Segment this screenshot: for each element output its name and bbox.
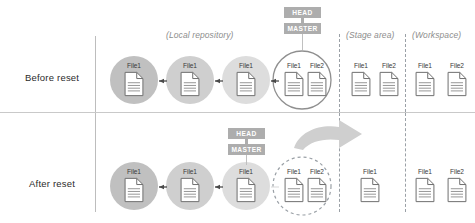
file-glyph-after-discarded-file2 <box>308 178 326 201</box>
file-label-after-discarded-file2: File2 <box>307 168 327 177</box>
file-glyph-after-commit2-file1 <box>181 178 199 201</box>
file-glyph-before-commit2-file1 <box>181 72 199 95</box>
file-glyph-before-commit1-file1 <box>125 72 143 95</box>
head-master-tags-before: HEAD MASTER <box>284 7 321 50</box>
head-tag-before: HEAD <box>284 7 321 18</box>
head-tag-after: HEAD <box>228 128 265 139</box>
file-label-after-stage-file1: File1 <box>360 168 380 177</box>
tag-stem-before <box>302 34 304 50</box>
tag-stem-after <box>246 155 248 165</box>
file-label-before-head-file2: File2 <box>307 62 327 71</box>
master-tag-after: MASTER <box>228 144 265 155</box>
file-label-before-stage-file1: File1 <box>351 62 371 71</box>
file-label-before-workspace-file2: File2 <box>447 62 467 71</box>
file-label-before-stage-file2: File2 <box>379 62 399 71</box>
file-glyph-after-commit1-file1 <box>125 178 143 201</box>
file-label-before-head-file1: File1 <box>284 62 304 71</box>
diagram-graphics <box>0 0 475 223</box>
file-label-before-commit2-file1: File1 <box>180 62 200 71</box>
file-glyph-after-discarded-file1 <box>285 178 303 201</box>
file-glyph-before-head-file1 <box>285 72 303 95</box>
file-label-after-workspace-file2: File2 <box>447 168 467 177</box>
reset-direction-arrow <box>294 120 362 150</box>
head-master-tags-after: HEAD MASTER <box>228 128 265 165</box>
file-glyph-before-head-file2 <box>308 72 326 95</box>
file-label-before-workspace-file1: File1 <box>415 62 435 71</box>
file-glyph-before-stage-file2 <box>380 72 398 95</box>
file-glyph-after-workspace-file1 <box>416 178 434 201</box>
master-tag-before: MASTER <box>284 23 321 34</box>
file-glyph-after-workspace-file2 <box>448 178 466 201</box>
file-label-after-commit2-file1: File1 <box>180 168 200 177</box>
file-label-after-commit3-file1: File1 <box>236 168 256 177</box>
file-glyph-before-commit3-file1 <box>237 72 255 95</box>
file-label-after-workspace-file1: File1 <box>415 168 435 177</box>
file-glyph-before-workspace-file2 <box>448 72 466 95</box>
file-label-after-commit1-file1: File1 <box>124 168 144 177</box>
file-label-before-commit3-file1: File1 <box>236 62 256 71</box>
diagram-canvas: (Local repository) (Stage area) (Workspa… <box>0 0 475 223</box>
file-label-before-commit1-file1: File1 <box>124 62 144 71</box>
file-glyph-before-stage-file1 <box>352 72 370 95</box>
file-glyph-after-stage-file1 <box>361 178 379 201</box>
file-label-after-discarded-file1: File1 <box>284 168 304 177</box>
file-glyph-before-workspace-file1 <box>416 72 434 95</box>
file-glyph-after-commit3-file1 <box>237 178 255 201</box>
